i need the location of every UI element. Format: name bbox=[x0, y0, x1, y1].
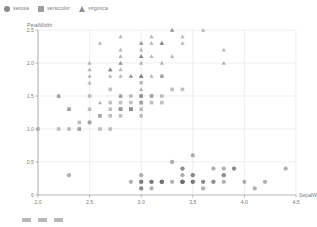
data-point bbox=[129, 101, 133, 105]
data-point bbox=[180, 173, 184, 177]
tick-label-layer: 2.02.53.03.54.04.500.51.01.52.02.5 bbox=[27, 27, 300, 205]
scatter-plot: 2.02.53.03.54.04.500.51.01.52.02.5 Petal… bbox=[0, 18, 317, 218]
data-point bbox=[149, 34, 153, 38]
data-point bbox=[201, 186, 205, 190]
data-point bbox=[108, 88, 112, 92]
data-point bbox=[201, 180, 205, 184]
square-marker-icon bbox=[38, 6, 44, 12]
data-point bbox=[139, 186, 143, 190]
data-point bbox=[149, 41, 153, 45]
data-point bbox=[139, 101, 143, 105]
data-point bbox=[180, 166, 184, 170]
x-tick-label: 3.0 bbox=[138, 199, 145, 205]
data-point bbox=[139, 54, 143, 58]
data-point bbox=[191, 173, 195, 177]
data-point bbox=[160, 94, 164, 98]
data-point bbox=[211, 166, 215, 170]
data-point bbox=[222, 48, 226, 52]
data-point bbox=[263, 180, 267, 184]
data-point bbox=[108, 114, 112, 118]
data-point bbox=[87, 74, 91, 78]
data-point bbox=[108, 107, 112, 111]
data-point bbox=[98, 41, 102, 45]
data-point bbox=[129, 180, 133, 184]
legend-item-versicolor[interactable]: versicolor bbox=[38, 3, 70, 14]
data-point bbox=[180, 34, 184, 38]
data-point bbox=[149, 186, 153, 190]
legend-label: setosa bbox=[13, 3, 29, 14]
data-point bbox=[232, 166, 236, 170]
data-point bbox=[108, 101, 112, 105]
data-point bbox=[87, 67, 91, 71]
data-point bbox=[149, 54, 153, 58]
data-point bbox=[67, 107, 71, 111]
data-point bbox=[108, 74, 112, 78]
data-point bbox=[119, 101, 123, 105]
data-point bbox=[222, 166, 226, 170]
legend-item-virginica[interactable]: virginica bbox=[79, 3, 108, 14]
data-point bbox=[118, 54, 122, 58]
y-tick-label: 1.0 bbox=[27, 126, 34, 132]
data-point bbox=[118, 74, 122, 78]
legend-label: virginica bbox=[88, 3, 108, 14]
data-point bbox=[67, 127, 71, 131]
data-point bbox=[108, 127, 112, 131]
data-point bbox=[170, 180, 174, 184]
strip-chip bbox=[22, 218, 31, 222]
data-point bbox=[160, 180, 164, 184]
y-axis-title: PetalWidth bbox=[27, 22, 52, 28]
data-point bbox=[170, 54, 174, 58]
x-tick-label: 2.5 bbox=[86, 199, 93, 205]
data-point bbox=[139, 107, 143, 111]
data-point bbox=[119, 107, 123, 111]
data-point bbox=[67, 173, 71, 177]
data-point bbox=[98, 114, 102, 118]
data-point bbox=[139, 173, 143, 177]
x-axis-title: SepalWidth bbox=[299, 192, 317, 198]
series-versicolor bbox=[36, 74, 184, 130]
data-point bbox=[150, 94, 154, 98]
data-point bbox=[129, 107, 133, 111]
data-point bbox=[129, 94, 133, 98]
data-point bbox=[77, 121, 81, 125]
data-point bbox=[118, 67, 122, 71]
data-point bbox=[57, 127, 61, 131]
data-point bbox=[98, 127, 102, 131]
circle-marker-icon bbox=[4, 6, 10, 12]
data-point bbox=[160, 41, 164, 45]
data-point bbox=[36, 127, 40, 131]
y-tick-label: 1.5 bbox=[27, 93, 34, 99]
axis-layer bbox=[36, 30, 297, 198]
data-point bbox=[160, 101, 164, 105]
data-point bbox=[211, 180, 215, 184]
data-point bbox=[222, 173, 226, 177]
x-tick-label: 2.0 bbox=[34, 199, 41, 205]
data-point bbox=[253, 186, 257, 190]
legend-item-setosa[interactable]: setosa bbox=[4, 3, 29, 14]
bottom-legend-strip bbox=[0, 218, 317, 227]
data-point bbox=[149, 180, 153, 184]
data-point bbox=[180, 180, 184, 184]
data-point bbox=[222, 180, 226, 184]
y-tick-label: 2.0 bbox=[27, 60, 34, 66]
data-point bbox=[139, 94, 143, 98]
data-point bbox=[284, 166, 288, 170]
data-point bbox=[108, 67, 112, 71]
strip-chip bbox=[54, 218, 63, 222]
data-point bbox=[88, 94, 92, 98]
strip-chip bbox=[38, 218, 47, 222]
data-point bbox=[88, 121, 92, 125]
y-tick-label: 2.5 bbox=[27, 27, 34, 33]
plot-canvas: 2.02.53.03.54.04.500.51.01.52.02.5 Petal… bbox=[0, 18, 317, 218]
data-point bbox=[77, 127, 81, 131]
data-point bbox=[118, 34, 122, 38]
x-tick-label: 4.0 bbox=[241, 199, 248, 205]
data-point bbox=[242, 180, 246, 184]
data-point bbox=[139, 41, 143, 45]
data-point bbox=[149, 74, 153, 78]
data-point bbox=[139, 180, 143, 184]
data-point bbox=[180, 41, 184, 45]
y-tick-label: 0 bbox=[31, 192, 34, 198]
data-point bbox=[139, 74, 143, 78]
data-point bbox=[139, 87, 143, 91]
